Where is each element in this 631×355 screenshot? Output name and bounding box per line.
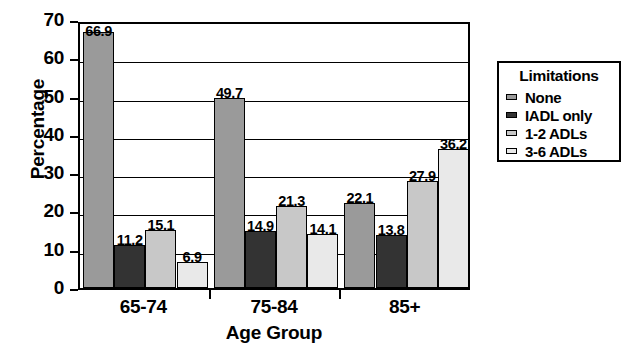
bar-value-label: 22.1 — [338, 190, 381, 206]
legend-entry: 1-2 ADLs — [506, 124, 618, 142]
legend-entry-label: IADL only — [525, 107, 592, 124]
bar — [214, 98, 245, 288]
x-axis-group-label: 75-84 — [209, 296, 340, 318]
bar-value-label: 36.2 — [432, 136, 475, 152]
legend-swatch-icon — [506, 148, 517, 154]
y-axis-tick-mark — [70, 136, 78, 138]
legend-swatch-icon — [506, 112, 517, 118]
legend-swatch-icon — [506, 130, 517, 136]
bar — [438, 149, 469, 288]
bar-value-label: 21.3 — [270, 193, 313, 209]
bar — [307, 234, 338, 288]
y-axis-tick-label: 40 — [8, 124, 64, 146]
y-axis-tick-label: 30 — [8, 162, 64, 184]
y-axis-tick-label: 50 — [8, 86, 64, 108]
y-axis-tick-label: 20 — [8, 200, 64, 222]
bar — [276, 206, 307, 288]
legend-box: Limitations NoneIADL only1-2 ADLs3-6 ADL… — [497, 61, 621, 162]
legend-entry-label: 1-2 ADLs — [525, 125, 587, 142]
legend-entry: IADL only — [506, 106, 618, 124]
bar — [344, 203, 375, 288]
bar-value-label: 6.9 — [171, 249, 214, 265]
bar — [376, 235, 407, 288]
bar — [407, 181, 438, 288]
legend-entry-label: 3-6 ADLs — [525, 143, 587, 160]
legend-entry-label: None — [525, 89, 561, 106]
y-axis-tick-mark — [70, 251, 78, 253]
y-axis-tick-mark — [70, 98, 78, 100]
y-axis-tick-label: 70 — [8, 9, 64, 31]
bar — [83, 32, 114, 288]
gridline — [80, 139, 468, 140]
plot-area: 66.911.215.16.949.714.921.314.122.113.82… — [78, 22, 470, 290]
bar-value-label: 49.7 — [208, 85, 251, 101]
y-axis-tick-mark — [70, 212, 78, 214]
bar-value-label: 14.1 — [301, 221, 344, 237]
bar-value-label: 66.9 — [77, 23, 120, 39]
gridline — [80, 62, 468, 63]
bar-value-label: 15.1 — [139, 217, 182, 233]
legend-entry: None — [506, 88, 618, 106]
x-axis-title: Age Group — [78, 322, 470, 344]
bar — [114, 245, 145, 288]
legend-entry: 3-6 ADLs — [506, 142, 618, 160]
y-axis-tick-mark — [70, 59, 78, 61]
bar — [245, 231, 276, 288]
x-axis-group-label: 85+ — [339, 296, 470, 318]
y-axis-tick-label: 0 — [8, 277, 64, 299]
bar-chart-figure: Percentage 010203040506070 66.911.215.16… — [0, 0, 631, 355]
bar — [177, 262, 208, 288]
x-axis-group-label: 65-74 — [78, 296, 209, 318]
legend-title: Limitations — [499, 67, 619, 85]
y-axis-tick-mark — [70, 289, 78, 291]
y-axis-tick-label: 60 — [8, 47, 64, 69]
y-axis-tick-mark — [70, 174, 78, 176]
gridline — [80, 101, 468, 102]
y-axis-tick-label: 10 — [8, 239, 64, 261]
legend-swatch-icon — [506, 94, 517, 100]
